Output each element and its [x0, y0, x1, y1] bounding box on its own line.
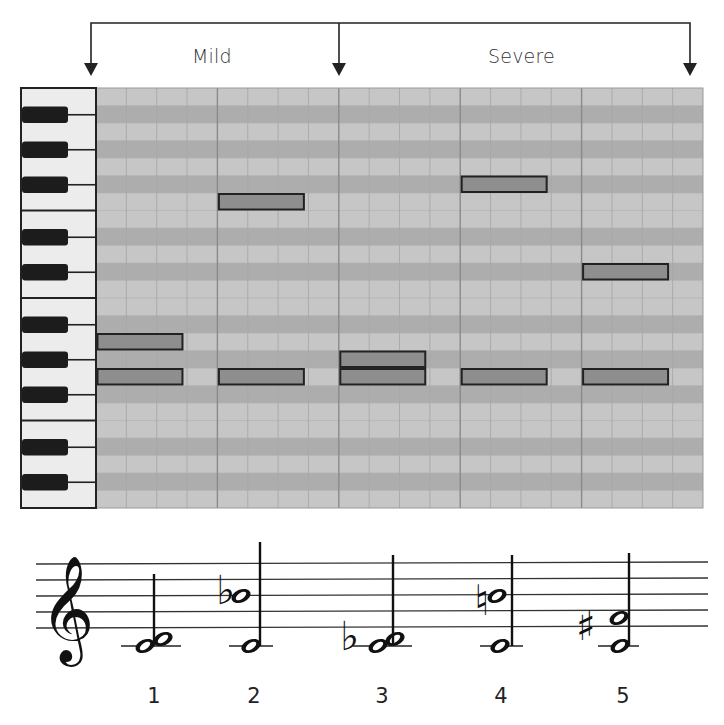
accidental-icon: ♭ [340, 613, 359, 659]
accidental-icon: ♮ [474, 576, 489, 625]
chord-number-label: 5 [608, 684, 638, 708]
chord-number-label: 3 [367, 684, 397, 708]
chord-number-label: 4 [486, 684, 516, 708]
accidental-icon: ♯ [576, 603, 595, 649]
chord-number-label: 2 [239, 684, 269, 708]
note-head-icon [607, 608, 630, 628]
chord-number-label: 1 [139, 684, 169, 708]
music-staff: 𝄞 ♭♭♮♯ [0, 0, 724, 725]
treble-clef-icon: 𝄞 [40, 555, 94, 667]
note-head-icon [488, 636, 511, 656]
accidental-icon: ♭ [216, 567, 235, 613]
